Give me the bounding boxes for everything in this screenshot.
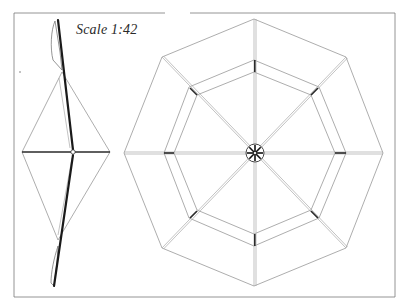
side-view — [22, 20, 110, 286]
plan-view — [124, 19, 383, 286]
scale-label: Scale 1:42 — [76, 22, 137, 38]
mast-lower — [54, 155, 73, 286]
drawing-frame — [14, 13, 395, 297]
central-hub — [246, 144, 264, 162]
hub-joint — [71, 150, 75, 154]
technical-drawing — [0, 0, 407, 307]
